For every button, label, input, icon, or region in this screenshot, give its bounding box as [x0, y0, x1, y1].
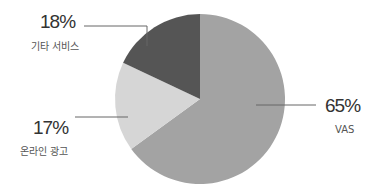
other-percent: 18%: [40, 11, 75, 33]
online-ads-label: 온라인 광고: [20, 143, 68, 158]
other-label: 기타 서비스: [31, 38, 79, 53]
vas-label: VAS: [335, 124, 354, 135]
pie-slices: [115, 14, 285, 184]
vas-percent: 65%: [325, 95, 360, 117]
online-ads-percent: 17%: [33, 117, 68, 139]
